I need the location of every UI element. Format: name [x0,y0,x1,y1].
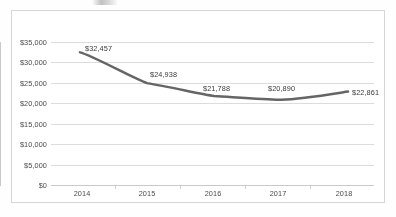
y-tick-label: $0 [39,181,47,190]
data-label-2018: $22,861 [352,88,379,97]
x-tick-mark [245,185,246,189]
x-axis-line [51,185,374,186]
data-label-2014: $32,457 [85,44,112,53]
y-tick-label: $35,000 [20,38,47,47]
plot-area [51,42,374,185]
x-tick-mark [180,185,181,189]
x-tick-label-2015: 2015 [139,189,156,198]
gridline [51,165,374,166]
x-tick-label-2017: 2017 [270,189,287,198]
y-tick-label: $10,000 [20,140,47,149]
gridline [51,103,374,104]
gridline [51,124,374,125]
y-tick-label: $15,000 [20,119,47,128]
x-tick-mark [310,185,311,189]
y-axis-labels: $35,000 $30,000 $25,000 $20,000 $15,000 … [0,0,47,217]
y-tick-label: $5,000 [24,160,47,169]
gridline [51,144,374,145]
data-label-2017: $20,890 [268,84,295,93]
data-label-2015: $24,938 [150,70,177,79]
y-tick-label: $25,000 [20,78,47,87]
y-tick-label: $30,000 [20,58,47,67]
x-tick-label-2018: 2018 [336,189,353,198]
y-axis-line [0,42,1,186]
x-tick-label-2016: 2016 [205,189,222,198]
scan-artifact [92,0,118,5]
x-tick-label-2014: 2014 [74,189,91,198]
x-tick-mark [115,185,116,189]
data-label-2016: $21,788 [203,84,230,93]
gridline [51,62,374,63]
gridline [51,42,374,43]
chart-screenshot: $35,000 $30,000 $25,000 $20,000 $15,000 … [0,0,396,217]
y-tick-label: $20,000 [20,99,47,108]
